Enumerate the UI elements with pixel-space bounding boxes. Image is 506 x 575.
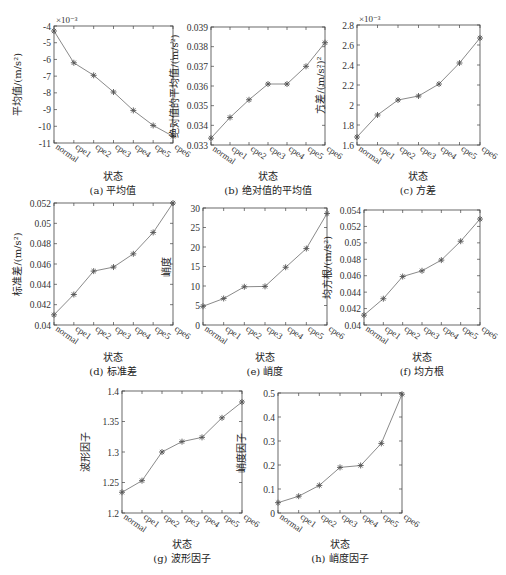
x-axis-label: 状态 <box>255 351 275 363</box>
y-tick-label: -7 <box>43 72 51 82</box>
axes-frame <box>54 203 173 325</box>
y-tick-label: 0.052 <box>340 222 362 232</box>
x-tick-label: cpe6 <box>480 323 500 341</box>
asterisk-marker-icon <box>150 122 156 128</box>
x-tick-label: cpe3 <box>265 323 285 341</box>
asterisk-marker-icon <box>265 81 271 87</box>
asterisk-marker-icon <box>322 40 328 46</box>
asterisk-marker-icon <box>395 97 401 103</box>
x-tick-label: cpe2 <box>403 323 423 341</box>
x-tick-label: cpe4 <box>202 511 222 529</box>
y-tick-label: -8 <box>43 88 51 98</box>
y-tick-label: 0.036 <box>187 82 209 92</box>
x-tick-label: cpe4 <box>286 323 306 341</box>
y-tick-label: 0.046 <box>340 271 362 281</box>
x-tick-label: cpe6 <box>480 143 500 161</box>
asterisk-marker-icon <box>200 303 206 309</box>
subplot-caption: (f) 均方根 <box>400 365 445 377</box>
x-tick-label: cpe4 <box>133 323 153 341</box>
x-tick-label: cpe3 <box>418 143 438 161</box>
y-tick-label: 0.05 <box>34 219 51 229</box>
asterisk-marker-icon <box>303 63 309 69</box>
y-tick-label: 0.04 <box>34 321 51 331</box>
x-tick-label: cpe2 <box>94 323 114 341</box>
x-axis-label: 状态 <box>412 351 432 363</box>
asterisk-marker-icon <box>419 268 425 274</box>
asterisk-marker-icon <box>71 60 77 66</box>
x-axis-label: 状态 <box>258 170 278 182</box>
asterisk-marker-icon <box>296 493 302 499</box>
y-tick-label: -5 <box>43 38 51 48</box>
y-tick-label: 10 <box>191 282 201 292</box>
y-tick-label: 0.034 <box>187 121 209 131</box>
asterisk-marker-icon <box>159 449 165 455</box>
y-tick-label: 0.035 <box>187 101 209 111</box>
asterisk-marker-icon <box>71 292 77 298</box>
x-tick-label: cpe3 <box>422 323 442 341</box>
asterisk-marker-icon <box>139 478 145 484</box>
axes-frame <box>357 25 480 145</box>
x-axis-label: 状态 <box>330 538 350 550</box>
asterisk-marker-icon <box>477 35 483 41</box>
asterisk-marker-icon <box>241 284 247 290</box>
x-tick-label: cpe6 <box>402 511 422 529</box>
data-line <box>203 214 327 307</box>
x-tick-label: cpe2 <box>94 141 114 159</box>
x-tick-label: cpe3 <box>113 323 133 341</box>
x-tick-label: cpe5 <box>381 511 401 529</box>
x-tick-label: cpe6 <box>242 511 262 529</box>
y-tick-label: 0.048 <box>340 255 362 265</box>
subplot-d: 0.040.0420.0440.0460.0480.050.052normalc… <box>11 199 193 378</box>
y-tick-label: 0.044 <box>30 280 52 290</box>
asterisk-marker-icon <box>324 210 330 216</box>
y-tick-label: -4 <box>43 22 51 32</box>
y-tick-label: 5 <box>195 301 200 311</box>
x-tick-label: cpe5 <box>222 511 242 529</box>
x-tick-label: cpe2 <box>398 143 418 161</box>
x-tick-label: cpe4 <box>439 143 459 161</box>
x-tick-label: cpe2 <box>319 511 339 529</box>
subplot-caption: (b) 绝对值的平均值 <box>224 184 311 196</box>
asterisk-marker-icon <box>208 135 214 141</box>
y-tick-label: -10 <box>38 122 51 132</box>
y-tick-label: 0.5 <box>263 389 275 399</box>
y-tick-label: 0.044 <box>340 288 362 298</box>
asterisk-marker-icon <box>219 415 225 421</box>
y-tick-label: 0.4 <box>263 413 275 423</box>
asterisk-marker-icon <box>361 312 367 318</box>
y-tick-label: 20 <box>191 243 201 253</box>
asterisk-marker-icon <box>111 264 117 270</box>
y-tick-label: 1.25 <box>102 478 119 488</box>
asterisk-marker-icon <box>119 489 125 495</box>
asterisk-marker-icon <box>246 97 252 103</box>
y-tick-label: 2 <box>349 101 354 111</box>
x-tick-label: cpe3 <box>182 511 202 529</box>
y-tick-label: 2.2 <box>342 81 354 91</box>
y-axis-label: 绝对值的平均值/(m/s²) <box>168 34 180 137</box>
y-tick-label: 0.033 <box>187 141 209 151</box>
asterisk-marker-icon <box>378 440 384 446</box>
y-axis-label: 均方根/(m/s²) <box>321 236 333 299</box>
subplot-caption: (a) 平均值 <box>90 184 137 196</box>
y-tick-label: 0.1 <box>263 485 275 495</box>
subplot-g: 1.21.251.31.351.4normalcpe1cpe2cpe3cpe4c… <box>79 387 262 565</box>
y-tick-label: 30 <box>191 204 201 214</box>
x-tick-label: cpe3 <box>340 511 360 529</box>
y-exponent-label: ×10⁻³ <box>56 15 78 25</box>
asterisk-marker-icon <box>399 391 405 397</box>
y-axis-label: 峭度因子 <box>235 433 247 473</box>
asterisk-marker-icon <box>275 500 281 506</box>
y-tick-label: 1.35 <box>102 417 119 427</box>
x-tick-label: cpe3 <box>268 143 288 161</box>
x-tick-label: cpe5 <box>306 143 326 161</box>
asterisk-marker-icon <box>221 295 227 301</box>
asterisk-marker-icon <box>375 112 381 118</box>
data-line <box>278 394 402 503</box>
asterisk-marker-icon <box>303 246 309 252</box>
y-tick-label: 0.038 <box>187 42 209 52</box>
subplot-caption: (d) 标准差 <box>89 365 136 377</box>
asterisk-marker-icon <box>111 89 117 95</box>
data-line <box>54 31 173 136</box>
x-tick-label: cpe2 <box>162 511 182 529</box>
subplot-caption: (e) 峭度 <box>247 365 284 377</box>
